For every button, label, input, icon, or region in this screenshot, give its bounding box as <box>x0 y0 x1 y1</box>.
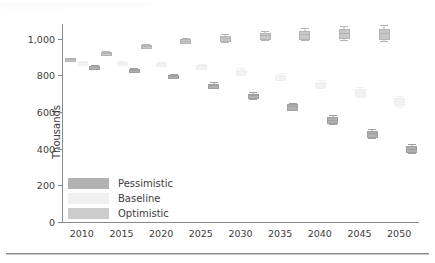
data-point-box-marker <box>339 26 350 40</box>
legend-swatch <box>68 178 109 189</box>
x-axis-tick-label: 2035 <box>268 228 292 239</box>
median-line <box>236 71 247 72</box>
x-axis-line <box>62 222 419 223</box>
interquartile-box <box>355 89 366 97</box>
whisker-cap-lower <box>380 41 388 42</box>
data-point-box-marker <box>180 38 191 44</box>
data-point-box-marker <box>196 64 207 69</box>
x-axis-tick-label: 2045 <box>347 228 371 239</box>
median-line <box>248 95 259 96</box>
whisker-cap-upper <box>317 80 325 81</box>
whisker-cap-upper <box>301 28 309 29</box>
median-line <box>379 33 390 34</box>
median-line <box>220 38 231 39</box>
whisker-cap-upper <box>380 25 388 26</box>
y-axis-tick-label: 600 <box>37 107 55 118</box>
data-point-box-marker <box>129 68 140 71</box>
data-point-box-marker <box>101 51 112 54</box>
whisker-cap-upper <box>356 87 364 88</box>
whisker-cap-lower <box>340 40 348 41</box>
whisker-cap-lower <box>396 107 404 108</box>
chart-legend: PessimisticBaselineOptimistic <box>68 176 173 221</box>
figure-container: Thousands PessimisticBaselineOptimistic … <box>0 0 435 263</box>
median-line <box>89 66 100 67</box>
x-axis-tick-label: 2040 <box>308 228 332 239</box>
median-line <box>355 92 366 93</box>
data-point-box-marker <box>367 129 378 138</box>
median-line <box>156 64 167 65</box>
y-axis-tick <box>58 112 62 113</box>
legend-swatch <box>68 193 109 204</box>
median-line <box>327 120 338 121</box>
bottom-rule-shadow <box>6 254 429 255</box>
legend-item-baseline[interactable]: Baseline <box>68 191 173 205</box>
data-point-box-marker <box>65 58 76 61</box>
interquartile-box <box>367 131 378 138</box>
median-line <box>406 149 417 150</box>
data-point-box-marker <box>315 80 326 89</box>
median-line <box>65 59 76 60</box>
interquartile-box <box>339 29 350 39</box>
whisker-cap-lower <box>368 138 376 139</box>
data-point-box-marker <box>394 96 405 107</box>
y-axis-tick <box>58 222 62 223</box>
data-point-box-marker <box>260 31 271 41</box>
y-axis-tick <box>58 75 62 76</box>
whisker-cap-upper <box>340 26 348 27</box>
data-point-box-marker <box>117 61 128 64</box>
x-axis-tick-label: 2010 <box>70 228 94 239</box>
x-axis-tick-label: 2030 <box>228 228 252 239</box>
y-axis-tick <box>58 149 62 150</box>
whisker-cap-lower <box>261 40 269 41</box>
median-line <box>141 46 152 47</box>
median-line <box>315 84 326 85</box>
whisker-cap-upper <box>396 96 404 97</box>
x-axis-tick-label: 2050 <box>387 228 411 239</box>
legend-label: Optimistic <box>118 208 169 219</box>
data-point-box-marker <box>299 28 310 40</box>
y-axis-tick-label: 200 <box>37 180 55 191</box>
data-point-box-marker <box>89 65 100 68</box>
legend-label: Pessimistic <box>118 178 173 189</box>
y-axis-tick-label: 0 <box>49 217 55 228</box>
whisker-cap-lower <box>317 88 325 89</box>
y-axis-line <box>62 24 63 223</box>
median-line <box>208 85 219 86</box>
median-line <box>394 101 405 102</box>
interquartile-box <box>394 98 405 106</box>
data-point-box-marker <box>406 144 417 154</box>
y-axis-tick-label: 800 <box>37 70 55 81</box>
median-line <box>299 34 310 35</box>
whisker-cap-upper <box>368 129 376 130</box>
data-point-box-marker <box>355 87 366 97</box>
legend-item-optimistic[interactable]: Optimistic <box>68 206 173 220</box>
x-axis-tick-label: 2020 <box>149 228 173 239</box>
data-point-box-marker <box>220 34 231 41</box>
interquartile-box <box>315 82 326 89</box>
y-axis-tick-label: 1,000 <box>28 33 55 44</box>
data-point-box-marker <box>275 73 286 80</box>
interquartile-box <box>287 104 298 110</box>
legend-item-pessimistic[interactable]: Pessimistic <box>68 176 173 190</box>
median-line <box>287 106 298 107</box>
bottom-rule <box>6 253 429 254</box>
data-point-box-marker <box>156 62 167 66</box>
whisker-cap-upper <box>261 31 269 32</box>
median-line <box>101 53 112 54</box>
data-point-box-marker <box>77 61 88 64</box>
whisker-cap-lower <box>356 97 364 98</box>
data-point-box-marker <box>379 25 390 41</box>
whisker-cap-upper <box>408 144 416 145</box>
median-line <box>339 33 350 34</box>
interquartile-box <box>220 36 231 42</box>
x-axis-tick-label: 2015 <box>109 228 133 239</box>
interquartile-box <box>299 31 310 40</box>
data-point-box-marker <box>208 82 219 88</box>
y-axis-tick <box>58 39 62 40</box>
median-line <box>77 62 88 63</box>
whisker-cap-lower <box>301 40 309 41</box>
legend-swatch <box>68 208 109 219</box>
y-axis-tick-label: 400 <box>37 143 55 154</box>
median-line <box>275 77 286 78</box>
median-line <box>180 41 191 42</box>
